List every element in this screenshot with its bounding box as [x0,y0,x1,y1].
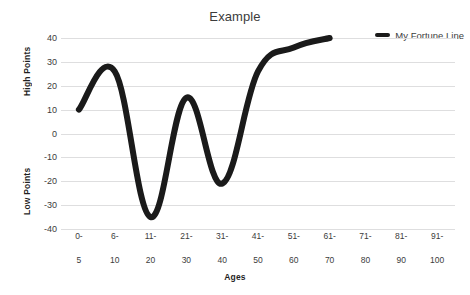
line-path [79,38,330,217]
y-tick-label: 20 [5,81,57,90]
plot-area [61,38,455,229]
y-tick-label: 30 [5,57,57,66]
y-tick-label: -20 [5,177,57,186]
x-axis-title: Ages [0,272,470,282]
y-tick-label: -10 [5,153,57,162]
series-my-fortune-line [53,30,463,237]
y-tick-label: 40 [5,34,57,43]
chart-title: Example [0,9,470,24]
y-tick-label: -30 [5,201,57,210]
x-axis-ticks: 0-56-1011-2021-3031-4041-5051-6061-7071-… [61,232,455,274]
y-tick-label: -40 [5,225,57,234]
y-axis-ticks: 403020100-10-20-30-40 [0,38,57,229]
y-tick-label: 10 [5,105,57,114]
chart-container: Example My Fortune Line High Points Low … [0,0,470,295]
y-tick-label: 0 [5,129,57,138]
x-tick-label: 91-100 [416,232,458,264]
